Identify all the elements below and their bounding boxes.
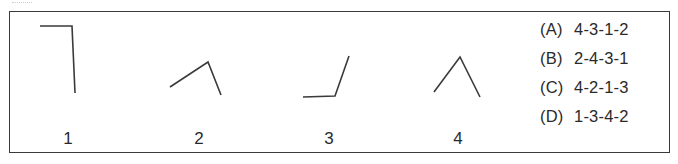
figure-4-shape bbox=[434, 57, 480, 97]
option-b-value: 2-4-3-1 bbox=[574, 49, 629, 67]
option-a-value: 4-3-1-2 bbox=[574, 20, 629, 38]
figure-4-label: 4 bbox=[453, 129, 462, 149]
figure-1-label: 1 bbox=[63, 129, 72, 149]
option-d[interactable]: (D)1-3-4-2 bbox=[540, 107, 629, 136]
figure-2-label: 2 bbox=[194, 129, 203, 149]
figure-3-shape bbox=[303, 56, 349, 97]
option-a-key: (A) bbox=[540, 20, 574, 39]
option-c-key: (C) bbox=[540, 78, 574, 97]
figure-2-shape bbox=[170, 62, 221, 95]
option-d-key: (D) bbox=[540, 107, 574, 126]
option-b[interactable]: (B)2-4-3-1 bbox=[540, 49, 629, 78]
answer-options: (A)4-3-1-2 (B)2-4-3-1 (C)4-2-1-3 (D)1-3-… bbox=[540, 20, 629, 136]
option-c[interactable]: (C)4-2-1-3 bbox=[540, 78, 629, 107]
option-c-value: 4-2-1-3 bbox=[574, 78, 629, 96]
option-a[interactable]: (A)4-3-1-2 bbox=[540, 20, 629, 49]
figure-1-shape bbox=[40, 26, 75, 93]
option-b-key: (B) bbox=[540, 49, 574, 68]
figure-3-label: 3 bbox=[324, 129, 333, 149]
option-d-value: 1-3-4-2 bbox=[574, 107, 629, 125]
